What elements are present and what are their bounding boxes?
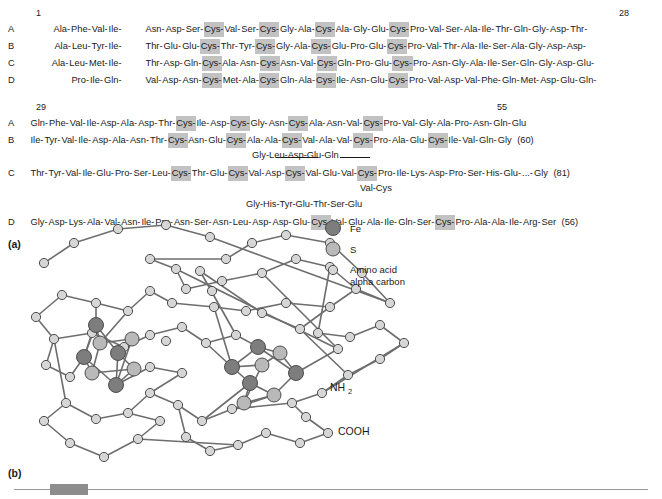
- alpha-carbon-atom: [317, 388, 326, 397]
- residue: Gly-: [451, 56, 469, 71]
- alignment-row: BIle-Tyr-Val-Ile-Asp-Ala-Asn-Thr-Cys-Asn…: [0, 133, 662, 150]
- residue: Pro-: [373, 133, 392, 148]
- residue: Ser-: [241, 22, 260, 37]
- residue: Ala-: [335, 22, 353, 37]
- alpha-carbon-atom: [61, 398, 70, 407]
- residue: Ala-: [308, 116, 326, 131]
- alignment-segment-n-terminal: Ala-Leu-Met-Ile-: [30, 56, 122, 71]
- bond: [36, 295, 62, 317]
- residue: Gln-: [578, 73, 597, 88]
- residue-conserved-cys: Cys-: [357, 166, 377, 181]
- residue: Asp-: [428, 166, 448, 181]
- alpha-carbon-atom: [241, 306, 250, 315]
- residue: Ile-: [30, 133, 44, 148]
- residue-conserved-cys: Cys-: [202, 56, 222, 71]
- residue: Gly-: [275, 39, 293, 54]
- alignment-residue-count: (81): [548, 168, 570, 178]
- residue-conserved-cys: Cys-: [389, 22, 409, 37]
- bond: [70, 443, 104, 457]
- residue: Asp-: [100, 116, 120, 131]
- residue: Asp-: [566, 39, 586, 54]
- alignment-insertion-row: Val-Cys: [0, 183, 662, 199]
- residue-conserved-cys: Cys-: [316, 73, 336, 88]
- residue: Ile-: [86, 116, 100, 131]
- bond: [44, 421, 70, 443]
- residue-conserved-cys: Cys-: [285, 166, 305, 181]
- alignment-row: CAla-Leu-Met-Ile-Thr-Asp-Gln-Cys-Ala-Asn…: [0, 56, 662, 73]
- residue: Thr-: [158, 116, 176, 131]
- residue: Gln-: [30, 116, 49, 131]
- residue: Val-: [145, 73, 162, 88]
- residue: Asp-: [550, 22, 570, 37]
- residue: Pro-: [408, 73, 427, 88]
- alpha-carbon-atom: [231, 330, 240, 339]
- structure-legend: Fe S Amino acid alpha carbon: [326, 221, 405, 288]
- residue: Val-: [65, 166, 82, 181]
- residue: Gly-: [538, 56, 556, 71]
- residue-conserved-cys: Cys-: [176, 116, 196, 131]
- alpha-carbon-atom: [57, 290, 66, 299]
- residue: Ala-: [54, 39, 72, 54]
- alpha-carbon-atom: [291, 254, 300, 263]
- bond: [356, 289, 390, 303]
- residue: Gln-: [519, 56, 538, 71]
- residue: Met-: [520, 73, 540, 88]
- residue: Glu-: [576, 56, 595, 71]
- alpha-carbon-atom: [113, 224, 122, 233]
- residue: Gly-: [353, 22, 371, 37]
- residue: Asn-: [145, 22, 165, 37]
- residue: Gln-: [337, 56, 356, 71]
- residue-conserved-cys: Cys-: [311, 39, 331, 54]
- residue: Pro-: [114, 166, 133, 181]
- residue-conserved-cys: Cys-: [259, 73, 279, 88]
- alpha-carbon-atom: [133, 434, 142, 443]
- residue: Ile-: [78, 133, 92, 148]
- residue: Asn-: [268, 116, 288, 131]
- residue: Tyr-: [238, 39, 255, 54]
- residue-conserved-cys: Cys-: [204, 22, 224, 37]
- residue: Gly-: [279, 22, 297, 37]
- alpha-carbon-atom: [233, 440, 242, 449]
- legend-label-s: S: [350, 244, 356, 255]
- sulfur-atom: [125, 332, 139, 346]
- residue: Ala-: [319, 133, 337, 148]
- footer-rule: [0, 484, 662, 494]
- alpha-carbon-atom: [205, 446, 214, 455]
- alignment-row-id: D: [0, 75, 30, 85]
- alpha-carbon-atom: [145, 330, 154, 339]
- residue: Val-: [427, 73, 444, 88]
- residue: Glu-: [409, 133, 428, 148]
- alpha-carbon-atom: [313, 328, 322, 337]
- residue: Asn-: [431, 56, 451, 71]
- residue: Met-: [88, 56, 108, 71]
- alpha-carbon-atom: [295, 438, 304, 447]
- residue: Asp-: [265, 166, 285, 181]
- residue: Val-: [69, 116, 86, 131]
- ruler-start-number-block2: 29: [36, 102, 46, 112]
- residue: Ser-: [467, 166, 486, 181]
- residue: Val-: [302, 133, 319, 148]
- residue-conserved-cys: Cys-: [259, 22, 279, 37]
- alpha-carbon-atom: [257, 268, 266, 277]
- alpha-carbon-atom: [343, 370, 352, 379]
- alpha-carbon-atom: [301, 412, 310, 421]
- residue: Ser-: [133, 166, 152, 181]
- residue: Gln-: [493, 116, 512, 131]
- residue: Pro-: [448, 166, 467, 181]
- residue: Asp-: [163, 56, 183, 71]
- residue: Glu-: [370, 73, 389, 88]
- residue: Thr-: [145, 56, 163, 71]
- iron-atom: [89, 318, 104, 333]
- alpha-carbon-swatch: [328, 265, 337, 274]
- alignment-insertion-row: Gly-Leu-Asp-Glu-Gln: [0, 150, 662, 166]
- residue: Gly-: [532, 22, 550, 37]
- residue-conserved-cys: Cys-: [168, 133, 188, 148]
- alpha-carbon-atom: [201, 338, 210, 347]
- residue-conserved-cys: Cys-: [226, 133, 246, 148]
- residue: Ile-: [90, 73, 104, 88]
- residue: Asp-: [556, 56, 576, 71]
- residue: Asp-: [162, 73, 182, 88]
- alpha-carbon-atom: [221, 254, 230, 263]
- sulfur-atom: [273, 346, 287, 360]
- residue: Val-: [341, 166, 358, 181]
